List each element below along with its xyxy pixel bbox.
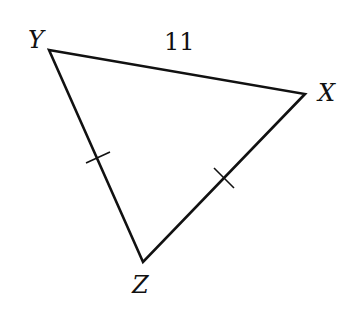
vertex-label-x: X [316, 79, 336, 107]
triangle-diagram: Y X Z 11 [0, 0, 359, 313]
vertex-label-y: Y [28, 26, 46, 54]
triangle-xyz [49, 50, 305, 262]
side-label-yx: 11 [164, 28, 195, 56]
vertex-label-z: Z [131, 271, 150, 299]
